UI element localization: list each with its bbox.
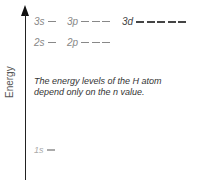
explanation-note: The energy levels of the H atom depend o… [34, 76, 184, 98]
level-label: 1s [34, 145, 44, 155]
orbital-dash [48, 42, 56, 44]
level-2p: 2p [67, 37, 113, 48]
orbital-dash [136, 21, 144, 23]
orbital-dash [102, 42, 110, 44]
level-label: 3s [34, 16, 45, 27]
level-3p: 3p [67, 16, 113, 27]
orbital-dash [178, 21, 186, 23]
orbital-dash [147, 21, 155, 23]
orbital-dash [81, 21, 89, 23]
orbital-dash [157, 21, 165, 23]
axis-label: Energy [4, 66, 15, 98]
level-3d: 3d [122, 16, 189, 27]
orbital-dash [48, 21, 56, 23]
level-1s: 1s [34, 145, 57, 155]
level-3s: 3s [34, 16, 58, 27]
level-label: 2p [67, 37, 78, 48]
orbital-dash [47, 149, 55, 151]
level-label: 3d [122, 16, 133, 27]
orbital-dash [102, 21, 110, 23]
orbital-dash [168, 21, 176, 23]
level-label: 3p [67, 16, 78, 27]
level-2s: 2s [34, 37, 58, 48]
orbital-dash [81, 42, 89, 44]
energy-axis [25, 14, 26, 180]
orbital-dash [92, 42, 100, 44]
level-label: 2s [34, 37, 45, 48]
orbital-dash [92, 21, 100, 23]
